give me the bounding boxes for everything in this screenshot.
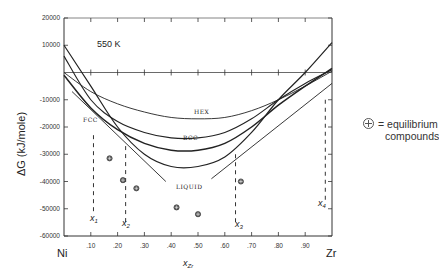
x-tick-label: .20: [113, 242, 122, 249]
equilibrium-compound-point: [120, 178, 125, 183]
x-axis-label: xZr: [182, 258, 194, 269]
legend: = equilibrium compounds: [363, 118, 439, 142]
x-tick-label: .40: [167, 242, 176, 249]
equilibrium-compound-point: [174, 205, 179, 210]
x-right-element-label: Zr: [326, 247, 337, 259]
y-tick-label: -40000: [40, 178, 61, 185]
x-tick-label: .90: [301, 242, 310, 249]
y-tick-label: -50000: [40, 205, 61, 212]
equilibrium-compound-point: [107, 156, 112, 161]
x2-label: x2: [121, 218, 131, 229]
x-tick-label: .50: [193, 242, 202, 249]
axes: [64, 18, 332, 236]
x-tick-label: .60: [220, 242, 229, 249]
x-left-element-label: Ni: [57, 247, 67, 259]
y-tick-label: -60000: [40, 232, 61, 239]
x-tick-label: .10: [86, 242, 95, 249]
hex-curve-label: HEX: [194, 108, 210, 115]
x-tick-label: .80: [274, 242, 283, 249]
legend-text-2: compounds: [385, 130, 439, 142]
equilibrium-compound-symbol-icon: [363, 118, 374, 129]
legend-row-2: compounds: [363, 130, 439, 142]
equilibrium-compound-point: [195, 212, 200, 217]
x1-label: x1: [89, 213, 98, 224]
y-tick-label: -10000: [40, 96, 61, 103]
tangent-lines: [72, 83, 332, 181]
bcc-curve: [64, 56, 332, 138]
legend-text-1: = equilibrium: [378, 118, 438, 130]
x3-label: x3: [234, 219, 244, 230]
liquid-curve-label: LIQUID: [176, 183, 203, 190]
y-axis-label: ΔG (kJ/mole): [15, 112, 27, 176]
equilibrium-compound-point: [134, 186, 139, 191]
y-tick-label: -20000: [40, 123, 61, 130]
equilibrium-compound-point: [238, 179, 243, 184]
common-tangent-line: [72, 92, 166, 182]
fcc-curve-label: FCC: [83, 116, 98, 123]
liquid-curve: [64, 43, 332, 168]
tick-marks: .10.20.30.40.50.60.70.80.902000010000-10…: [40, 14, 332, 249]
y-tick-label: -30000: [40, 150, 61, 157]
y-tick-label: 10000: [42, 41, 60, 48]
x-tick-label: .30: [140, 242, 149, 249]
bcc-curve-label: BCC: [183, 134, 198, 141]
temperature-label: 550 K: [97, 39, 121, 49]
composition-markers: [93, 100, 325, 223]
y-tick-label: 20000: [42, 14, 60, 21]
x-tick-label: .70: [247, 242, 256, 249]
legend-row-1: = equilibrium: [363, 118, 439, 130]
energy-curves: [64, 43, 332, 168]
